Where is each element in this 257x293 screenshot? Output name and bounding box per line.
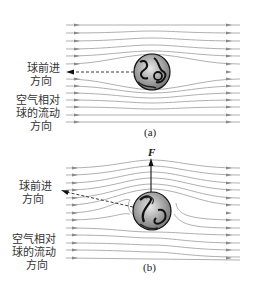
panel-a-airflow-label: 空气相对 球的流动 方向: [4, 94, 60, 133]
label-line: 方向: [0, 193, 52, 206]
panel-a-ball-direction-label: 球前进 方向: [4, 62, 60, 88]
label-line: 球前进: [4, 62, 60, 75]
label-line: 方向: [4, 75, 60, 88]
panel-a-ball: [134, 54, 170, 90]
panel-b-airflow-label: 空气相对 球的流动 方向: [0, 233, 56, 272]
force-label: F: [148, 146, 155, 158]
panel-a-caption: (a): [144, 126, 156, 138]
label-line: 球的流动: [0, 246, 56, 259]
label-line: 球的流动: [4, 107, 60, 120]
panel-a-direction-arrowhead: [66, 70, 74, 75]
label-line: 空气相对: [0, 233, 56, 246]
panel-b-direction-arrowhead: [61, 190, 69, 195]
panel-b-caption: (b): [143, 261, 156, 273]
label-line: 球前进: [0, 180, 52, 193]
label-line: 方向: [4, 120, 60, 133]
label-line: 空气相对: [4, 94, 60, 107]
panel-b-ball-direction-label: 球前进 方向: [0, 180, 52, 206]
panel-b-force-arrowhead: [149, 158, 154, 166]
panel-b-ball: [133, 192, 171, 230]
label-line: 方向: [0, 259, 56, 272]
